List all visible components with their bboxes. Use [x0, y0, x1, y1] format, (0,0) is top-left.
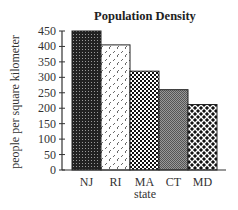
x-tick-label: MD — [193, 175, 213, 189]
y-tick-label: 450 — [38, 24, 56, 38]
y-tick-label: 100 — [38, 132, 56, 146]
y-tick-label: 0 — [50, 163, 56, 177]
y-tick-label: 300 — [38, 70, 56, 84]
x-tick-label: NJ — [80, 175, 94, 189]
y-tick-label: 400 — [38, 39, 56, 53]
bar-ct — [159, 90, 188, 170]
y-axis-label: people per square kilometer — [8, 35, 22, 169]
chart: 050100150200250300350400450 NJRIMACTMD p… — [0, 0, 238, 210]
y-tick-label: 150 — [38, 117, 56, 131]
bar-ri — [101, 45, 130, 170]
bar-nj — [72, 31, 101, 170]
y-tick-label: 50 — [44, 148, 56, 162]
x-tick-label: RI — [110, 175, 122, 189]
bar-md — [188, 105, 217, 170]
y-tick-label: 250 — [38, 86, 56, 100]
y-tick-label: 350 — [38, 55, 56, 69]
x-tick-label: CT — [166, 175, 182, 189]
y-tick-label: 200 — [38, 101, 56, 115]
x-axis-label: state — [134, 187, 156, 201]
bar-ma — [130, 71, 159, 170]
